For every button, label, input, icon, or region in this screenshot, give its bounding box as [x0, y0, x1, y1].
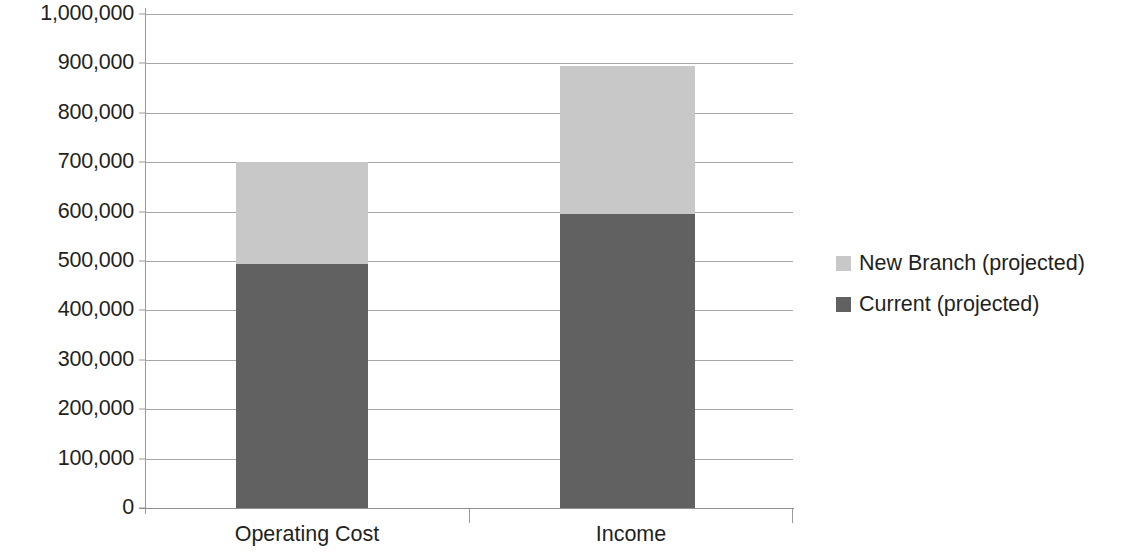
gridline — [145, 14, 793, 15]
category-axis-end-tick — [792, 509, 793, 523]
y-axis-tick-label: 200,000 — [0, 398, 134, 420]
y-axis-tick-label: 100,000 — [0, 448, 134, 470]
y-axis-tick-label: 900,000 — [0, 53, 134, 75]
bar-segment-new-branch-projected[interactable] — [236, 162, 368, 263]
value-axis-line — [145, 8, 146, 514]
legend-item-new-branch-projected[interactable]: New Branch (projected) — [836, 243, 1116, 284]
y-axis-tick-label: 600,000 — [0, 201, 134, 223]
x-axis-category-label-income: Income — [469, 524, 793, 546]
y-axis-tick-label: 800,000 — [0, 102, 134, 124]
y-axis-tick-labels: 0 100,000 200,000 300,000 400,000 500,00… — [0, 0, 134, 558]
legend-label: New Branch (projected) — [859, 253, 1085, 275]
bar-operating-cost[interactable] — [236, 162, 368, 508]
legend-swatch-icon — [836, 256, 851, 271]
bar-segment-current-projected[interactable] — [236, 264, 368, 509]
y-axis-tick-label: 0 — [0, 497, 134, 519]
chart-legend: New Branch (projected) Current (projecte… — [836, 243, 1116, 325]
bar-segment-current-projected[interactable] — [560, 214, 695, 508]
gridline — [145, 113, 793, 114]
stacked-bar-chart: 0 100,000 200,000 300,000 400,000 500,00… — [0, 0, 1122, 558]
x-axis-category-label-operating-cost: Operating Cost — [145, 524, 469, 546]
legend-swatch-icon — [836, 297, 851, 312]
y-axis-tick-label: 700,000 — [0, 151, 134, 173]
category-axis-divider — [469, 509, 470, 523]
gridline — [145, 63, 793, 64]
plot-area — [145, 14, 793, 508]
legend-item-current-projected[interactable]: Current (projected) — [836, 284, 1116, 325]
legend-label: Current (projected) — [859, 294, 1039, 316]
y-axis-tick-label: 300,000 — [0, 349, 134, 371]
bar-income[interactable] — [560, 66, 695, 508]
bar-segment-new-branch-projected[interactable] — [560, 66, 695, 214]
y-axis-tick-label: 500,000 — [0, 250, 134, 272]
y-axis-tick-label: 1,000,000 — [0, 3, 134, 25]
y-axis-tick-label: 400,000 — [0, 300, 134, 322]
